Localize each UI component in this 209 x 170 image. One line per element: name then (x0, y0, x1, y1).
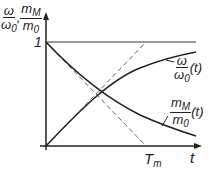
y-label-num1: ω (3, 4, 15, 18)
y-tick-1: 1 (34, 35, 42, 49)
x-axis-label: t (190, 150, 194, 165)
mM-den-sub: 0 (183, 118, 189, 129)
y-label-num2: m (21, 1, 32, 16)
omega-arg: (t) (190, 60, 202, 75)
leader-omega (166, 60, 174, 62)
Tm-main: T (144, 150, 153, 167)
mM-den: m (172, 112, 183, 127)
curve-omega-label: ωω0(t) (174, 54, 202, 84)
Tm-sub: m (153, 158, 161, 169)
x-tick-Tm: Tm (144, 151, 162, 169)
mM-num: m (171, 95, 182, 110)
mM-num-sub: M (182, 101, 190, 112)
omega-num: ω (176, 54, 188, 68)
y-label-num2-sub: M (32, 7, 40, 18)
y-axis-label: ωω0,mMm0 (1, 2, 42, 35)
omega-den: ω (174, 67, 184, 82)
y-label-den1: ω (1, 17, 11, 32)
y-axis-arrow-icon (43, 12, 49, 20)
mM-arg: (t) (191, 104, 203, 119)
x-axis-arrow-icon (194, 143, 202, 149)
y-label-den2: m (23, 18, 34, 33)
curve-mM-label: mMm0(t) (170, 96, 203, 129)
